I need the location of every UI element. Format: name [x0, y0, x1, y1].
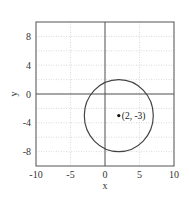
x-tick-label: 0: [103, 169, 108, 180]
x-tick-label: 5: [137, 169, 142, 180]
y-tick-label: 4: [26, 60, 31, 71]
x-tick-label: 10: [169, 169, 179, 180]
x-axis-label: x: [103, 180, 108, 191]
y-tick-label: -4: [23, 117, 31, 128]
x-tick-label: -5: [66, 169, 74, 180]
chart: -10-50510-8-4048xy(2, -3): [0, 0, 189, 199]
y-tick-label: 0: [26, 89, 31, 100]
x-tick-label: -10: [29, 169, 42, 180]
y-tick-label: -8: [23, 146, 31, 157]
y-axis-label: y: [8, 92, 19, 97]
center-point-label: (2, -3): [122, 111, 146, 122]
y-tick-label: 8: [26, 31, 31, 42]
center-point: [117, 114, 120, 117]
